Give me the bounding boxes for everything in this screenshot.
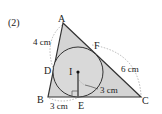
label-c: C	[142, 95, 149, 106]
label-i: I	[69, 66, 72, 77]
measure-be: 3 cm	[50, 101, 68, 111]
label-d: D	[44, 65, 51, 76]
label-f: F	[94, 40, 100, 51]
label-a: A	[58, 13, 66, 24]
incircle-triangle-diagram: (2) A B C D E F I 4 cm 6 cm 3 cm 3 cm	[0, 0, 162, 114]
measure-radius: 3 cm	[100, 85, 118, 95]
problem-number: (2)	[8, 17, 20, 29]
label-e: E	[78, 100, 84, 111]
measure-fc: 6 cm	[121, 64, 139, 74]
label-b: B	[37, 94, 44, 105]
incenter-point	[76, 70, 79, 73]
measure-ad: 4 cm	[33, 37, 51, 47]
